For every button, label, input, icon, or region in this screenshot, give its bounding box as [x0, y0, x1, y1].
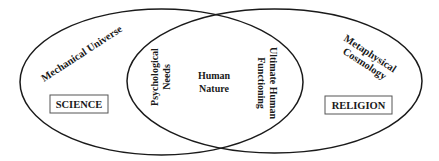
venn-diagram: Mechanical Universe SCIENCE Metaphysical…: [0, 0, 439, 161]
mechanical-universe-label: Mechanical Universe: [39, 23, 124, 84]
nature-label: Nature: [199, 83, 229, 94]
religion-label: RELIGION: [332, 100, 386, 111]
human-label: Human: [198, 70, 231, 81]
psychological-label: Psychological: [149, 48, 160, 106]
science-label: SCIENCE: [56, 99, 103, 110]
needs-label: Needs: [161, 64, 172, 90]
functioning-label: Functioning: [256, 57, 267, 109]
ultimate-human-label: Ultimate Human: [268, 47, 279, 119]
